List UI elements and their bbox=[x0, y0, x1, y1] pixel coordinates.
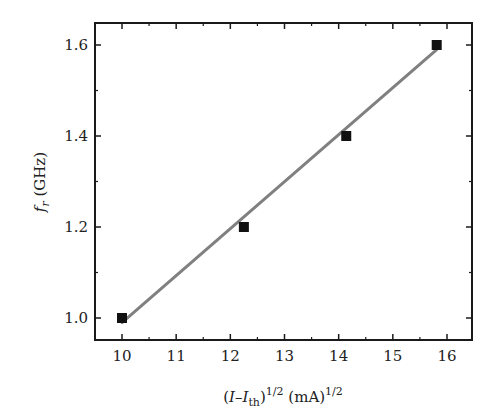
x-tick-label: 10 bbox=[112, 347, 131, 365]
data-points bbox=[117, 40, 442, 323]
chart: 10111213141516 1.01.21.41.6 (I–Ith)1/2 (… bbox=[0, 0, 500, 420]
x-axis-label: (I–Ith)1/2 (mA)1/2 bbox=[223, 385, 343, 409]
data-point-marker bbox=[239, 222, 249, 232]
x-tick-label: 16 bbox=[437, 347, 456, 365]
x-axis-ticks: 10111213141516 bbox=[112, 23, 456, 365]
x-tick-label: 14 bbox=[329, 347, 348, 365]
x-tick-label: 13 bbox=[275, 347, 294, 365]
y-axis-ticks: 1.01.21.41.6 bbox=[64, 36, 472, 327]
y-tick-label: 1.0 bbox=[64, 309, 88, 327]
y-tick-label: 1.2 bbox=[64, 218, 88, 236]
y-tick-label: 1.6 bbox=[64, 36, 88, 54]
x-tick-label: 12 bbox=[221, 347, 240, 365]
data-point-marker bbox=[117, 313, 127, 323]
data-point-marker bbox=[341, 131, 351, 141]
y-axis-label: fr (GHz) bbox=[31, 152, 52, 213]
x-tick-label: 15 bbox=[383, 347, 402, 365]
fit-line bbox=[122, 50, 437, 323]
y-tick-label: 1.4 bbox=[64, 127, 88, 145]
x-tick-label: 11 bbox=[167, 347, 186, 365]
data-point-marker bbox=[432, 40, 442, 50]
